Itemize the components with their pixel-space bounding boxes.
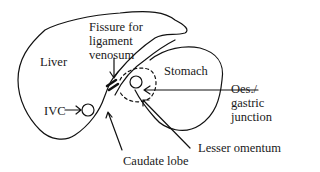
label-caudate-lobe: Caudate lobe — [123, 154, 189, 168]
label-fissure-line1: Fissure for — [89, 20, 143, 34]
label-liver: Liver — [40, 55, 67, 69]
label-fissure-line3: venosum — [89, 48, 134, 62]
oesophageal-junction-circle — [130, 76, 142, 88]
ivc-arrow — [65, 106, 81, 114]
label-oes-line3: junction — [231, 110, 272, 124]
stomach-outline — [135, 47, 223, 130]
caudate-arrow — [106, 112, 122, 150]
ivc-circle — [82, 104, 94, 116]
label-lesser-omentum: Lesser omentum — [198, 141, 281, 155]
label-ivc: IVC — [44, 104, 66, 118]
label-fissure-line2: ligament — [89, 34, 133, 48]
fissure-mark — [107, 80, 118, 90]
lesser-omentum-arrow — [143, 100, 190, 148]
label-oes-line2: gastric — [231, 96, 264, 110]
label-oes-line1: Oes./ — [231, 82, 257, 96]
lesser-omentum-dashed — [120, 68, 156, 102]
label-stomach: Stomach — [164, 64, 208, 78]
